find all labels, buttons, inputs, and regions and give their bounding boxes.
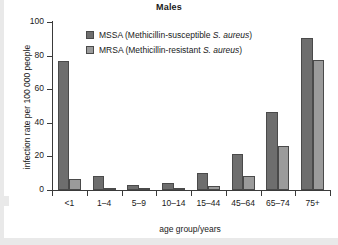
x-axis-tick-label: 10–14 xyxy=(156,199,191,208)
y-axis-label: infection rate per 100 000 people xyxy=(22,22,32,192)
x-axis-tick-label: 45–64 xyxy=(226,199,261,208)
x-axis-tick xyxy=(261,191,262,196)
x-axis-tick xyxy=(52,191,53,196)
bar-mssa xyxy=(197,173,209,190)
bar-group xyxy=(58,22,81,190)
scan-edge-artifact-bottom xyxy=(0,238,338,245)
legend-item-mssa: MSSA (Methicillin-susceptible S. aureus) xyxy=(86,28,252,41)
x-axis-tick xyxy=(87,191,88,196)
x-axis-tick-label: 5–9 xyxy=(122,199,157,208)
x-axis-tick xyxy=(156,191,157,196)
bar-group xyxy=(266,22,289,190)
y-axis-tick-label: 100 xyxy=(4,17,44,26)
bar-mssa xyxy=(58,61,70,190)
bar-mssa xyxy=(162,183,174,190)
x-axis-label: age group/years xyxy=(48,224,332,234)
x-axis-tick-label: 1–4 xyxy=(87,199,122,208)
x-axis-tick xyxy=(122,191,123,196)
bar-mssa xyxy=(266,112,278,190)
legend-label-mrsa: MRSA (Methicillin-resistant S. aureus) xyxy=(99,45,242,55)
x-axis-tick xyxy=(191,191,192,196)
y-axis-tick-label: 80 xyxy=(4,51,44,60)
legend-swatch-mrsa-icon xyxy=(86,46,94,54)
bar-mrsa xyxy=(278,146,290,190)
bar-mrsa xyxy=(104,188,116,190)
bar-mssa xyxy=(127,185,139,190)
x-axis-tick-label: 65–74 xyxy=(261,199,296,208)
x-axis-tick xyxy=(295,191,296,196)
bar-group xyxy=(301,22,324,190)
chart-figure: Males infection rate per 100 000 people … xyxy=(0,0,338,245)
chart-legend: MSSA (Methicillin-susceptible S. aureus)… xyxy=(86,28,252,58)
x-axis-tick-label: 15–44 xyxy=(191,199,226,208)
y-axis-tick-label: 40 xyxy=(4,118,44,127)
legend-swatch-mssa-icon xyxy=(86,31,94,39)
bar-mssa xyxy=(232,154,244,190)
x-axis-tick-label: 75+ xyxy=(295,199,330,208)
bar-mssa xyxy=(93,176,105,190)
bar-mrsa xyxy=(313,60,325,190)
chart-title: Males xyxy=(0,2,338,12)
bar-mrsa xyxy=(243,176,255,190)
bar-mrsa xyxy=(208,186,220,190)
x-axis-tick-label: <1 xyxy=(52,199,87,208)
scan-edge-artifact-left-2 xyxy=(0,196,9,206)
legend-label-mssa: MSSA (Methicillin-susceptible S. aureus) xyxy=(99,30,252,40)
y-axis-tick-label: 60 xyxy=(4,84,44,93)
legend-item-mrsa: MRSA (Methicillin-resistant S. aureus) xyxy=(86,43,252,56)
bar-mrsa xyxy=(69,179,81,190)
x-axis-tick xyxy=(330,191,331,196)
y-axis-tick-label: 20 xyxy=(4,151,44,160)
y-axis-tick-label: 0 xyxy=(4,185,44,194)
x-axis-tick xyxy=(226,191,227,196)
bar-mssa xyxy=(301,38,313,190)
bar-mrsa xyxy=(174,188,186,190)
bar-mrsa xyxy=(139,188,151,190)
